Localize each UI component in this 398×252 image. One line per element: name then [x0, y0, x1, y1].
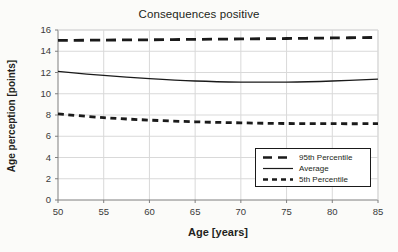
y-tick-label: 12: [25, 67, 51, 78]
y-tick-label: 0: [25, 194, 51, 205]
x-tick-label: 80: [317, 206, 347, 217]
y-tick-label: 8: [25, 109, 51, 120]
y-tick-label: 2: [25, 173, 51, 184]
legend-swatch-solid-icon: [261, 163, 295, 174]
legend-item-average: Average: [261, 163, 365, 174]
x-tick-label: 65: [180, 206, 210, 217]
legend-label-average: Average: [295, 164, 329, 173]
x-tick-label: 60: [134, 206, 164, 217]
legend-label-95th: 95th Percentile: [295, 153, 352, 162]
x-tick-label: 85: [363, 206, 393, 217]
legend-swatch-short-dash-icon: [261, 174, 295, 185]
x-tick-label: 50: [43, 206, 73, 217]
y-tick-label: 4: [25, 152, 51, 163]
x-tick-label: 55: [89, 206, 119, 217]
x-tick-label: 70: [226, 206, 256, 217]
x-tick-label: 75: [272, 206, 302, 217]
legend-swatch-long-dash-icon: [261, 152, 295, 163]
y-tick-label: 14: [25, 45, 51, 56]
y-tick-label: 6: [25, 130, 51, 141]
chart-legend: 95th Percentile Average 5th Percentile: [255, 148, 371, 187]
legend-item-5th: 5th Percentile: [261, 174, 365, 185]
legend-label-5th: 5th Percentile: [295, 175, 348, 184]
legend-item-95th: 95th Percentile: [261, 152, 365, 163]
y-tick-label: 16: [25, 24, 51, 35]
chart-figure: Consequences positive Age perception [po…: [0, 0, 398, 252]
y-tick-label: 10: [25, 88, 51, 99]
